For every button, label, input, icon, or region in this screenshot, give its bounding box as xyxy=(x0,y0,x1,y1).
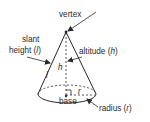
vertex-label: vertex xyxy=(59,10,81,19)
altitude-label: altitude (h) xyxy=(79,47,118,56)
slant-height-arrow xyxy=(27,57,50,63)
vertex-point xyxy=(65,31,68,34)
slant-l-mark: l xyxy=(46,71,48,80)
radius-label: radius (r) xyxy=(99,104,132,113)
cone-shape xyxy=(38,31,96,103)
right-angle-marker xyxy=(66,90,71,95)
altitude-h-mark: h xyxy=(58,63,63,72)
slant-label-line1: slant xyxy=(22,35,40,44)
base-label: base xyxy=(59,97,77,106)
radius-arrow xyxy=(87,99,98,107)
base-ellipse-back xyxy=(38,85,96,94)
slant-label-line2: height (l) xyxy=(9,46,41,55)
radius-r-mark: r xyxy=(78,87,81,96)
cone-right-side xyxy=(66,32,96,94)
cone-diagram: vertex slant height (l) altitude (h) h l… xyxy=(0,0,150,122)
